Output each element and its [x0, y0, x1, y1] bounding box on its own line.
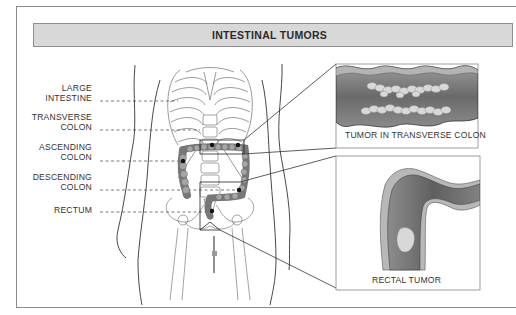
- inset-rectal: [336, 156, 480, 290]
- caption-transverse-tumor: TUMOR IN TRANSVERSE COLON: [345, 130, 486, 140]
- anus-marker: [212, 251, 217, 256]
- body-outline: [117, 64, 290, 305]
- caption-rectal-tumor: RECTAL TUMOR: [372, 275, 441, 285]
